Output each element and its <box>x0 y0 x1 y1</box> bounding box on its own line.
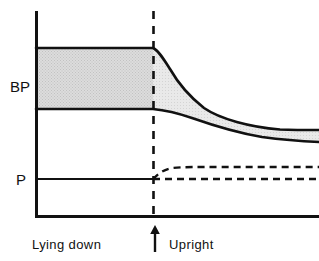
bp-axis-label: BP <box>10 78 30 95</box>
p-axis-label: P <box>16 171 26 188</box>
shaded-region-lying <box>36 48 153 109</box>
pulse-upright-upper-curve <box>153 167 319 179</box>
shaded-region-upright <box>153 48 319 142</box>
blood-pressure-pulse-figure: BP P Lying down Upright <box>0 0 319 261</box>
caption-lying-down: Lying down <box>32 237 101 252</box>
caption-upright: Upright <box>169 237 214 252</box>
up-arrow-icon <box>150 225 160 252</box>
